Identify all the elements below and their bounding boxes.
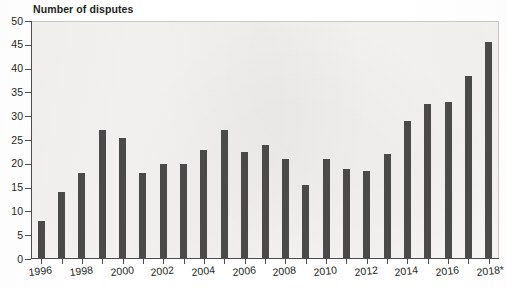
bar[interactable]: [282, 159, 289, 259]
y-axis-tick: [25, 69, 31, 70]
x-axis-tick: [468, 259, 469, 264]
bars-layer: [31, 21, 499, 259]
y-axis-tick-label: 0: [1, 254, 23, 265]
x-axis-tick: [184, 259, 185, 264]
bar[interactable]: [445, 102, 452, 259]
y-axis-tick: [25, 235, 31, 236]
bar[interactable]: [302, 185, 309, 259]
x-axis-tick-label: 2016: [435, 264, 459, 278]
bar[interactable]: [139, 173, 146, 259]
bar[interactable]: [58, 192, 65, 259]
bar[interactable]: [78, 173, 85, 259]
y-axis-tick-label: 35: [1, 87, 23, 98]
y-axis-tick-label: 30: [1, 111, 23, 122]
x-axis-tick-label: 2014: [394, 264, 418, 278]
x-axis-tick: [407, 259, 408, 264]
y-axis-tick: [25, 21, 31, 22]
bar[interactable]: [262, 145, 269, 259]
y-axis-tick: [25, 211, 31, 212]
x-axis-tick: [448, 259, 449, 264]
x-axis-tick-label: 2002: [150, 264, 174, 278]
x-axis-tick: [62, 259, 63, 264]
x-axis-tick-label: 2012: [354, 264, 378, 278]
x-axis-tick: [346, 259, 347, 264]
chart-title: Number of disputes: [33, 3, 133, 15]
bar[interactable]: [160, 164, 167, 259]
y-axis-tick-label: 20: [1, 158, 23, 169]
bar[interactable]: [485, 42, 492, 259]
y-axis-tick: [25, 259, 31, 260]
x-axis-tick: [489, 259, 490, 264]
y-axis-line: [31, 21, 32, 259]
bar[interactable]: [323, 159, 330, 259]
bar[interactable]: [99, 130, 106, 259]
y-axis-tick-label: 10: [1, 206, 23, 217]
x-axis-tick-label: 2010: [313, 264, 337, 278]
bar[interactable]: [404, 121, 411, 259]
bar[interactable]: [465, 76, 472, 259]
x-axis-tick: [326, 259, 327, 264]
y-axis-tick-label: 15: [1, 182, 23, 193]
x-axis-tick: [163, 259, 164, 264]
x-axis-tick-label: 2018*: [476, 263, 505, 278]
x-axis-tick-label: 2004: [191, 264, 215, 278]
y-axis-tick: [25, 140, 31, 141]
y-axis-tick: [25, 45, 31, 46]
y-axis-tick-label: 5: [1, 230, 23, 241]
y-axis-tick: [25, 188, 31, 189]
bar[interactable]: [38, 221, 45, 259]
x-axis-tick-label: 1996: [28, 264, 52, 278]
bar[interactable]: [119, 138, 126, 259]
x-axis-tick: [387, 259, 388, 264]
y-axis-tick: [25, 116, 31, 117]
x-axis-tick-label: 1998: [69, 264, 93, 278]
x-axis-tick: [428, 259, 429, 264]
bar[interactable]: [180, 164, 187, 259]
x-axis-tick: [204, 259, 205, 264]
y-axis-tick-label: 50: [1, 16, 23, 27]
bar[interactable]: [384, 154, 391, 259]
x-axis-tick-label: 2000: [110, 264, 134, 278]
y-axis-tick-label: 40: [1, 63, 23, 74]
bar[interactable]: [200, 150, 207, 259]
x-axis-tick: [82, 259, 83, 264]
x-axis-tick: [143, 259, 144, 264]
x-axis-tick: [367, 259, 368, 264]
x-axis-tick-label: 2006: [232, 264, 256, 278]
y-axis-tick: [25, 92, 31, 93]
chart-page: Number of disputes 05101520253035404550 …: [0, 0, 507, 289]
x-axis-tick: [265, 259, 266, 264]
x-axis-tick: [306, 259, 307, 264]
y-axis-tick-label: 25: [1, 135, 23, 146]
x-axis-tick: [245, 259, 246, 264]
bar[interactable]: [241, 152, 248, 259]
x-axis-tick-label: 2008: [272, 264, 296, 278]
x-axis-tick: [102, 259, 103, 264]
x-axis-tick: [123, 259, 124, 264]
bar[interactable]: [221, 130, 228, 259]
y-axis-tick: [25, 164, 31, 165]
bar[interactable]: [343, 169, 350, 259]
x-axis-tick: [224, 259, 225, 264]
y-axis-tick-label: 45: [1, 39, 23, 50]
x-axis-tick: [285, 259, 286, 264]
x-axis-tick: [41, 259, 42, 264]
y-axis-labels: 05101520253035404550: [0, 0, 23, 289]
bar[interactable]: [424, 104, 431, 259]
bar[interactable]: [363, 171, 370, 259]
